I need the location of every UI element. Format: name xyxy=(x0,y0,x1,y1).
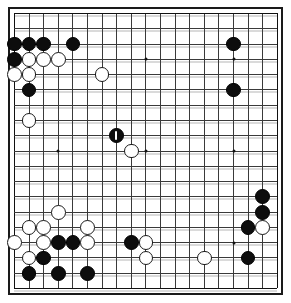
white-stone[interactable] xyxy=(80,235,95,250)
white-stone[interactable] xyxy=(80,220,95,235)
white-stone[interactable] xyxy=(22,113,37,128)
white-stone[interactable] xyxy=(36,220,51,235)
black-stone[interactable] xyxy=(51,235,66,250)
black-stone[interactable] xyxy=(226,83,241,98)
black-stone[interactable] xyxy=(124,235,139,250)
white-stone[interactable] xyxy=(197,251,212,266)
go-diagram xyxy=(0,0,291,303)
white-stone[interactable] xyxy=(255,220,270,235)
black-stone[interactable] xyxy=(7,52,22,67)
black-stone[interactable] xyxy=(22,266,37,281)
move-number-marker xyxy=(115,131,117,140)
white-stone[interactable] xyxy=(7,235,22,250)
white-stone[interactable] xyxy=(7,67,22,82)
white-stone[interactable] xyxy=(22,52,37,67)
white-stone[interactable] xyxy=(22,220,37,235)
go-board[interactable] xyxy=(8,7,283,295)
white-stone[interactable] xyxy=(124,144,139,159)
white-stone[interactable] xyxy=(51,205,66,220)
black-stone[interactable] xyxy=(241,220,256,235)
black-stone[interactable] xyxy=(51,266,66,281)
white-stone[interactable] xyxy=(36,52,51,67)
white-stone[interactable] xyxy=(51,52,66,67)
black-stone[interactable] xyxy=(80,266,95,281)
black-stone[interactable] xyxy=(226,37,241,52)
black-stone[interactable] xyxy=(255,205,270,220)
